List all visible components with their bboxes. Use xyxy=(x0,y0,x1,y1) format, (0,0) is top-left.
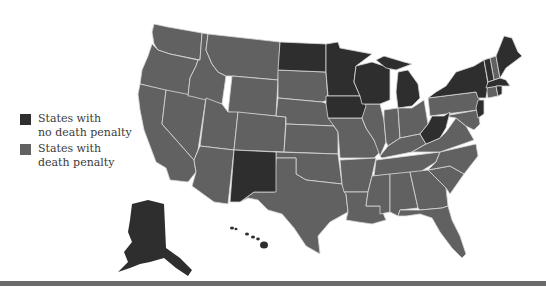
legend-label-line2: death penalty xyxy=(38,156,132,170)
state-kansas xyxy=(284,124,338,154)
state-south-dakota xyxy=(278,70,328,102)
legend-label-line1: States with xyxy=(38,112,132,126)
state-colorado xyxy=(234,112,286,152)
state-michigan-lower xyxy=(396,70,420,108)
legend-item-death-penalty: States with death penalty xyxy=(20,142,132,170)
state-alaska xyxy=(118,200,192,276)
state-iowa xyxy=(326,96,366,118)
bottom-divider xyxy=(0,281,546,286)
state-new-york xyxy=(428,60,488,98)
state-north-dakota xyxy=(278,42,326,72)
state-maine xyxy=(496,36,522,78)
map-legend: States with no death penalty States with… xyxy=(20,112,132,172)
legend-swatch-gray xyxy=(20,144,31,155)
state-arizona xyxy=(192,146,234,204)
legend-label-line2: no death penalty xyxy=(38,126,132,140)
state-florida xyxy=(398,206,466,258)
state-hawaii xyxy=(230,227,268,249)
legend-label-line1: States with xyxy=(38,142,132,156)
state-wyoming xyxy=(228,76,278,116)
state-new-jersey xyxy=(476,100,484,118)
legend-item-no-death-penalty: States with no death penalty xyxy=(20,112,132,140)
legend-swatch-dark xyxy=(20,114,31,125)
